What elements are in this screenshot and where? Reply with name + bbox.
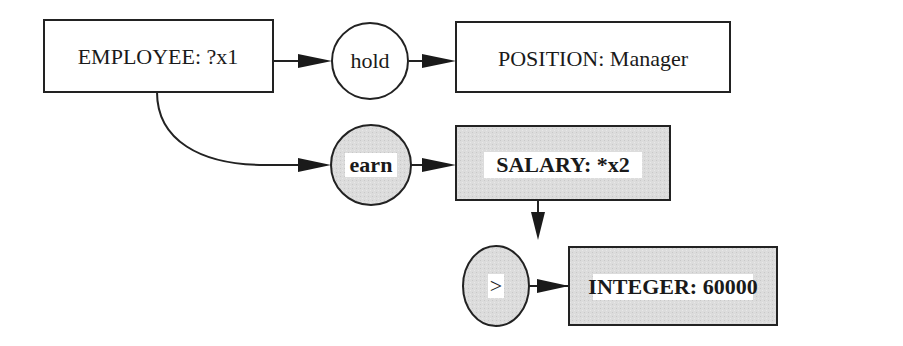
node-employee[interactable]: EMPLOYEE: ?x1 [44,20,273,92]
edge-employee-hold [273,54,332,68]
node-salary-label: SALARY: *x2 [496,152,630,177]
conceptual-graph-diagram: EMPLOYEE: ?x1 hold POSITION: Manager ear… [0,0,903,346]
node-greater-than-label: > [490,273,502,298]
node-hold[interactable]: hold [332,23,408,99]
node-earn-label: earn [350,152,393,177]
node-employee-label: EMPLOYEE: ?x1 [78,44,239,69]
node-integer[interactable]: INTEGER: 60000 [569,247,777,325]
node-hold-label: hold [350,48,389,73]
node-integer-label: INTEGER: 60000 [588,274,757,299]
node-position[interactable]: POSITION: Manager [456,22,730,92]
edge-employee-earn [157,92,331,172]
node-greater-than[interactable]: > [463,246,529,326]
edge-salary-greater [531,200,545,240]
edge-hold-position [409,54,456,68]
edge-earn-salary [411,158,456,172]
node-position-label: POSITION: Manager [498,46,689,71]
node-earn[interactable]: earn [331,125,411,205]
node-salary[interactable]: SALARY: *x2 [456,126,670,200]
